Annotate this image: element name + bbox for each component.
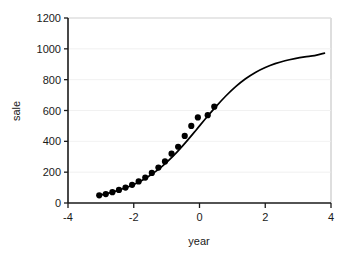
data-point [175, 144, 181, 150]
data-point [122, 184, 128, 190]
data-point [116, 187, 122, 193]
data-point [96, 192, 102, 198]
data-point [155, 164, 161, 170]
sales-logistic-chart: 020040060080010001200 -4-2024 year sale [0, 0, 352, 263]
y-tick-label: 0 [55, 197, 61, 209]
data-point [211, 104, 217, 110]
y-tick-label: 200 [43, 166, 61, 178]
x-tick-label: -4 [63, 211, 73, 223]
data-point [109, 189, 115, 195]
y-tick-label: 1200 [37, 12, 61, 24]
data-point [182, 133, 188, 139]
data-point [149, 170, 155, 176]
data-point [168, 151, 174, 157]
y-tick-label: 1000 [37, 43, 61, 55]
data-point [205, 112, 211, 118]
x-tick-label: 2 [262, 211, 268, 223]
y-tick-label: 600 [43, 105, 61, 117]
data-point [103, 191, 109, 197]
y-tick-label: 800 [43, 74, 61, 86]
x-tick-label: 0 [196, 211, 202, 223]
y-axis-title: sale [10, 101, 22, 121]
x-tick-label: 4 [328, 211, 334, 223]
data-point [129, 182, 135, 188]
data-point [136, 178, 142, 184]
y-tick-label: 400 [43, 135, 61, 147]
data-point [142, 174, 148, 180]
data-point [195, 114, 201, 120]
x-axis-title: year [188, 235, 210, 247]
data-point [162, 158, 168, 164]
x-tick-label: -2 [129, 211, 139, 223]
data-point [188, 123, 194, 129]
